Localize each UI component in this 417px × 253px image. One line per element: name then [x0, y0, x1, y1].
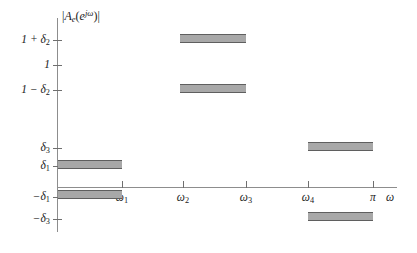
- y-axis-tick: [53, 90, 62, 91]
- tolerance-band-passband-mid-lower: [180, 84, 246, 93]
- y-axis-tick-label: −δ1: [0, 191, 50, 205]
- x-axis-tick-label: ω3: [231, 192, 261, 206]
- y-axis-line: [57, 18, 58, 232]
- x-axis-tick-label: ω4: [293, 192, 323, 206]
- y-axis-tick: [53, 219, 62, 220]
- tolerance-band-passband-low-upper: [58, 160, 122, 169]
- tolerance-band-passband-low-lower: [58, 190, 122, 199]
- y-axis-tick-label: δ3: [0, 142, 50, 156]
- tolerance-band-stopband-high-lower: [308, 212, 373, 221]
- x-axis-tick: [308, 181, 309, 188]
- filter-tolerance-scheme-figure: |Ae(ejω)| ω 1 + δ211 − δ2δ3δ1−δ1−δ3ω1ω2ω…: [0, 0, 417, 253]
- y-axis-tick-label: 1 − δ2: [0, 84, 50, 98]
- x-axis-tick: [183, 181, 184, 188]
- x-axis-tick-label: π: [358, 192, 388, 204]
- y-axis-tick: [53, 148, 62, 149]
- y-axis-tick-label: −δ3: [0, 213, 50, 227]
- tolerance-band-stopband-high-upper: [308, 142, 373, 151]
- x-axis-line: [57, 187, 397, 188]
- y-axis-tick-label: 1 + δ2: [0, 34, 50, 48]
- y-axis-tick: [53, 65, 62, 66]
- y-axis-tick-label: 1: [0, 59, 50, 71]
- x-axis-tick: [122, 181, 123, 188]
- x-axis-tick: [373, 181, 374, 188]
- y-axis-tick: [53, 40, 62, 41]
- x-axis-tick: [246, 181, 247, 188]
- y-axis-tick-label: δ1: [0, 160, 50, 174]
- x-axis-tick-label: ω2: [168, 192, 198, 206]
- tolerance-band-passband-mid-upper: [180, 34, 246, 43]
- y-axis-title: |Ae(ejω)|: [62, 9, 100, 24]
